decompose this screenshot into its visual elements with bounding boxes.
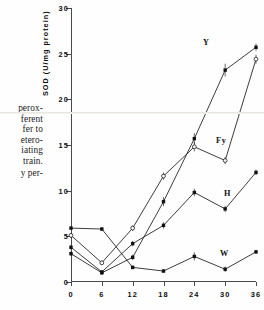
- series-label-y: Y: [203, 38, 210, 47]
- data-point: [162, 200, 165, 203]
- data-point: [131, 242, 134, 245]
- data-point: [223, 159, 227, 163]
- x-tick-label: 30: [220, 290, 230, 299]
- data-point: [193, 191, 196, 194]
- series-lines: [71, 8, 256, 282]
- data-point: [131, 226, 135, 230]
- data-point: [162, 269, 165, 272]
- data-point: [69, 252, 72, 255]
- x-tick-label: 0: [68, 290, 73, 299]
- x-tick: [133, 282, 134, 286]
- data-point: [100, 227, 103, 230]
- data-point: [254, 57, 258, 61]
- data-point: [223, 68, 226, 71]
- data-point: [100, 270, 103, 273]
- y-tick-label: 0: [64, 278, 69, 287]
- data-point: [193, 137, 196, 140]
- x-tick-label: 18: [158, 290, 168, 299]
- caption-line-3: etero-: [0, 135, 43, 146]
- y-tick-label: 5: [64, 232, 69, 241]
- caption-line-2: fer to: [0, 124, 43, 135]
- data-point: [69, 226, 72, 229]
- data-point: [192, 145, 196, 149]
- series-line-y: [71, 47, 256, 273]
- x-tick: [225, 282, 226, 286]
- data-point: [223, 268, 226, 271]
- data-point: [254, 171, 257, 174]
- figure-caption-fragment: perox- ferent fer to etero- iating train…: [0, 103, 43, 178]
- caption-line-5: train.: [0, 156, 43, 167]
- y-tick-label: 30: [59, 4, 69, 13]
- x-tick-label: 12: [127, 290, 137, 299]
- y-tick-label: 10: [59, 186, 69, 195]
- x-tick: [194, 282, 195, 286]
- caption-line-1: ferent: [0, 114, 43, 125]
- x-tick-label: 36: [251, 290, 261, 299]
- y-tick-label: 20: [59, 95, 69, 104]
- caption-line-4: iating: [0, 145, 43, 156]
- x-tick-label: 6: [99, 290, 104, 299]
- x-tick-label: 24: [189, 290, 199, 299]
- caption-line-6: y per-: [0, 168, 43, 179]
- series-label-w: W: [220, 249, 229, 258]
- series-line-fy: [71, 59, 256, 263]
- data-point: [223, 207, 226, 210]
- scan-artifact-line-2: [0, 113, 264, 114]
- x-tick: [256, 282, 257, 286]
- y-tick-label: 15: [59, 141, 69, 150]
- y-tick-label: 25: [59, 49, 69, 58]
- data-point: [193, 255, 196, 258]
- data-point: [162, 174, 166, 178]
- y-axis-title: SOD (U/mg protein): [41, 10, 50, 96]
- data-point: [69, 234, 73, 238]
- data-point: [131, 266, 134, 269]
- x-tick: [164, 282, 165, 286]
- data-point: [254, 250, 257, 253]
- series-label-h: H: [224, 189, 231, 198]
- data-point: [162, 224, 165, 227]
- x-tick: [102, 282, 103, 286]
- series-label-fy: Fy: [216, 136, 227, 145]
- chart-figure: perox- ferent fer to etero- iating train…: [0, 0, 264, 310]
- data-point: [254, 46, 257, 49]
- plot-area: 051015202530061218243036: [71, 8, 256, 282]
- data-point: [131, 256, 134, 259]
- x-tick: [71, 282, 72, 286]
- data-point: [69, 246, 72, 249]
- data-point: [100, 261, 104, 265]
